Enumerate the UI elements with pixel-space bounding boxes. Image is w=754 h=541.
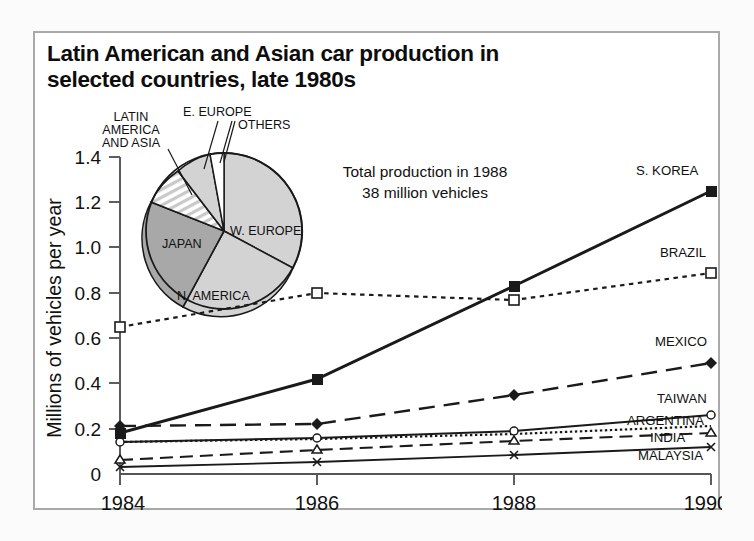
pie-label-w-europe: W. EUROPE: [230, 224, 301, 238]
x-tick-1984: 1984: [101, 492, 146, 512]
series-label-argentina: ARGENTINA: [627, 413, 704, 428]
figure-root: Latin American and Asian car production …: [0, 0, 754, 541]
series-label-s-korea: S. KOREA: [636, 163, 698, 178]
x-tick-labels: 1984 1986 1988 1990: [101, 492, 722, 512]
y-tick-0-4: 0.4: [75, 373, 102, 394]
chart-canvas: 1.4 1.2 1.0 0.8 0.6 0.4 0.2 0 1984 1986 …: [35, 33, 722, 512]
pie-label-japan: JAPAN: [162, 237, 202, 251]
y-tick-0-6: 0.6: [75, 328, 101, 349]
x-tick-1988: 1988: [492, 492, 537, 512]
figure-frame: Latin American and Asian car production …: [33, 31, 720, 510]
series-label-taiwan: TAIWAN: [657, 391, 707, 406]
series-label-brazil: BRAZIL: [660, 245, 706, 260]
x-tick-1986: 1986: [295, 492, 340, 512]
y-axis-label: Millions of vehicles per year: [43, 198, 65, 438]
x-tick-1990: 1990: [684, 492, 722, 512]
y-tick-labels: 1.4 1.2 1.0 0.8 0.6 0.4 0.2 0: [75, 147, 102, 485]
series-malaysia: [116, 443, 715, 471]
note-line-2: 38 million vehicles: [362, 184, 488, 201]
y-tick-0-8: 0.8: [75, 283, 101, 304]
pie-label-e-europe: E. EUROPE: [183, 105, 252, 119]
series-label-india: INDIA: [650, 430, 685, 445]
series-label-mexico: MEXICO: [655, 334, 707, 349]
y-axis-ticks: [109, 157, 120, 429]
x-axis-ticks: [120, 474, 711, 485]
pie-label-latin-line-2: AMERICA: [102, 123, 160, 137]
series-label-malaysia: MALAYSIA: [638, 448, 703, 463]
pie-label-others: OTHERS: [238, 118, 290, 132]
y-tick-0-2: 0.2: [75, 419, 101, 440]
pie-label-latin-line-1: LATIN: [114, 110, 149, 124]
series-malaysia-markers: [116, 443, 715, 471]
series-end-labels: S. KOREA BRAZIL MEXICO TAIWAN ARGENTINA …: [627, 163, 707, 463]
y-tick-1-0: 1.0: [75, 237, 101, 258]
pie-label-n-america: N. AMERICA: [177, 289, 250, 303]
pie-label-latin-line-3: AND ASIA: [102, 136, 161, 150]
y-tick-1-2: 1.2: [75, 192, 101, 213]
pie-total-note: Total production in 1988 38 million vehi…: [343, 163, 508, 201]
note-line-1: Total production in 1988: [343, 163, 508, 180]
y-tick-0: 0: [90, 464, 101, 485]
y-tick-1-4: 1.4: [75, 147, 102, 168]
